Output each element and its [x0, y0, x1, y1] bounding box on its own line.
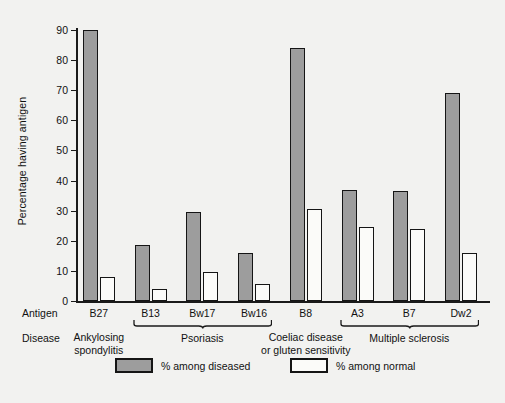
disease-group-label-2: Coeliac diseaseor gluten sensitivity [261, 331, 350, 357]
antigen-label-Bw17: Bw17 [189, 307, 215, 319]
y-tick-label: 50 [56, 144, 68, 156]
legend-entry-diseased: % among diseased [115, 358, 250, 373]
antigen-label-B8: B8 [299, 307, 312, 319]
legend-entry-normal: % among normal [290, 358, 415, 373]
y-tick-mark [71, 241, 76, 242]
bar-Dw2-normal [462, 253, 477, 301]
disease-group-line1: Psoriasis [181, 332, 224, 345]
plot-area: 0102030405060708090 [76, 28, 490, 303]
antigen-label-B27: B27 [89, 307, 108, 319]
disease-group-line2: or gluten sensitivity [261, 344, 350, 357]
legend-label-normal: % among normal [336, 360, 415, 372]
y-axis-line [76, 28, 78, 303]
x-axis-line [76, 301, 490, 303]
bar-Bw16-normal [255, 284, 270, 301]
y-tick-label: 0 [62, 295, 68, 307]
bar-B8-diseased [290, 48, 305, 301]
y-tick-label: 80 [56, 54, 68, 66]
y-tick-mark [71, 30, 76, 31]
y-tick-mark [71, 181, 76, 182]
bar-B27-normal [100, 277, 115, 301]
y-axis-title-text: Percentage having antigen [16, 97, 28, 226]
antigen-label-Bw16: Bw16 [241, 307, 267, 319]
bar-Bw17-normal [203, 272, 218, 301]
disease-group-line1: Multiple sclerosis [369, 332, 449, 345]
bar-chart: Percentage having antigen 01020304050607… [0, 0, 505, 403]
y-tick-mark [71, 211, 76, 212]
antigen-label-B13: B13 [141, 307, 160, 319]
y-tick-mark [71, 60, 76, 61]
bar-B7-normal [410, 229, 425, 301]
brace-1 [133, 320, 273, 329]
chart-legend: % among diseased % among normal [0, 358, 505, 382]
y-axis-title: Percentage having antigen [14, 18, 30, 304]
antigen-label-B7: B7 [403, 307, 416, 319]
disease-row-label: Disease [22, 332, 60, 344]
y-tick-mark [71, 150, 76, 151]
legend-swatch-normal-icon [290, 358, 328, 373]
disease-group-label-0: Ankylosingspondylitis [73, 331, 124, 357]
y-tick-label: 60 [56, 114, 68, 126]
y-tick-mark [71, 90, 76, 91]
y-tick-label: 40 [56, 175, 68, 187]
antigen-label-A3: A3 [351, 307, 364, 319]
legend-label-diseased: % among diseased [161, 360, 250, 372]
disease-group-label-1: Psoriasis [181, 332, 224, 345]
bar-B13-normal [152, 289, 167, 301]
disease-group-line1: Coeliac disease [261, 331, 350, 344]
y-tick-mark [71, 271, 76, 272]
antigen-row-label: Antigen [22, 307, 58, 319]
bar-Bw16-diseased [238, 253, 253, 301]
bar-B7-diseased [393, 191, 408, 301]
disease-group-line2: spondylitis [73, 344, 124, 357]
y-tick-label: 70 [56, 84, 68, 96]
y-tick-label: 30 [56, 205, 68, 217]
bar-B8-normal [307, 209, 322, 301]
bar-A3-diseased [342, 190, 357, 301]
bar-B13-diseased [135, 245, 150, 301]
disease-group-label-3: Multiple sclerosis [369, 332, 449, 345]
bar-Bw17-diseased [186, 212, 201, 301]
y-tick-label: 10 [56, 265, 68, 277]
disease-group-line1: Ankylosing [73, 331, 124, 344]
bar-Dw2-diseased [445, 93, 460, 301]
y-tick-mark [71, 120, 76, 121]
antigen-label-Dw2: Dw2 [451, 307, 472, 319]
y-tick-label: 90 [56, 24, 68, 36]
bar-B27-diseased [83, 30, 98, 301]
bar-A3-normal [359, 227, 374, 301]
brace-3 [340, 320, 480, 329]
legend-swatch-diseased-icon [115, 358, 153, 373]
y-tick-mark [71, 301, 76, 302]
y-tick-label: 20 [56, 235, 68, 247]
